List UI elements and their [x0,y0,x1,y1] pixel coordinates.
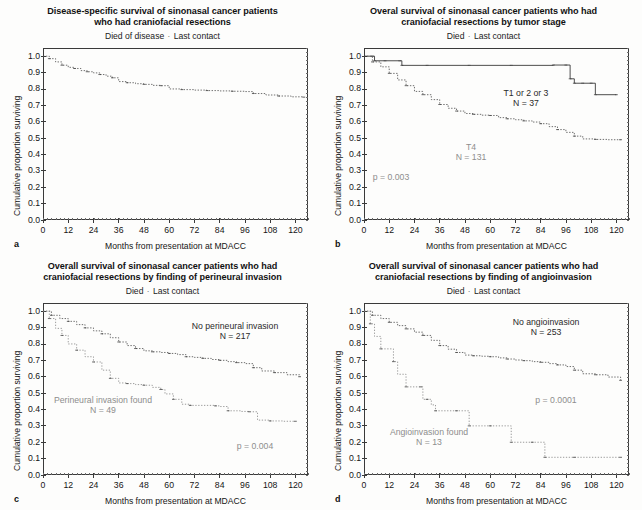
panel-a-curves [0,0,321,255]
panel-letter-a: a [14,239,19,249]
panel-d-group-label-2: Angioinvasion foundN = 13 [359,427,499,448]
panel-b-group-label-2: T4N = 131 [401,142,541,163]
panel-c-curves [0,255,321,510]
km-curve [43,56,304,97]
group-name: T4 [401,142,541,152]
panel-a: Disease-specific survival of sinonasal c… [0,0,321,255]
panel-c: Overall survival of sinonasal cancer pat… [0,255,321,510]
panel-letter-b: b [335,239,341,249]
group-count: N = 131 [401,152,541,162]
group-name: T1 or 2 or 3 [456,88,596,98]
panel-b: Overal survival of sinonasal cancer pati… [321,0,642,255]
panel-d-curves [321,255,642,510]
panel-b-group-label-1: T1 or 2 or 3N = 37 [456,88,596,109]
group-name: No perineural invasion [165,321,305,331]
panel-c-group-label-1: No perineural invasionN = 217 [165,321,305,342]
group-name: Perineural invasion found [33,395,173,405]
panel-letter-d: d [335,494,341,504]
panel-c-p-value: p = 0.004 [210,441,300,451]
figure-kaplan-meier-panels: Disease-specific survival of sinonasal c… [0,0,642,510]
group-count: N = 49 [33,405,173,415]
panel-b-p-value: p = 0.003 [346,172,436,182]
panel-b-curves [321,0,642,255]
group-name: No angioinvasion [476,317,616,327]
group-count: N = 37 [456,98,596,108]
panel-c-group-label-2: Perineural invasion foundN = 49 [33,395,173,416]
group-count: N = 217 [165,331,305,341]
group-count: N = 13 [359,437,499,447]
panel-letter-c: c [14,494,19,504]
panel-d-group-label-1: No angioinvasionN = 253 [476,317,616,338]
group-count: N = 253 [476,327,616,337]
panel-d: Overall survival of sinonasal cancer pat… [321,255,642,510]
group-name: Angioinvasion found [359,427,499,437]
panel-d-p-value: p = 0.0001 [511,395,601,405]
